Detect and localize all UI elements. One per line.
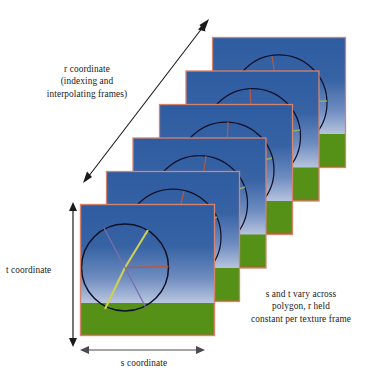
s-coordinate-label: s coordinate (98, 357, 190, 369)
annotation-note: s and t vary across polygon, r held cons… (232, 288, 370, 325)
figure-canvas: r coordinate (indexing and interpolating… (0, 0, 374, 381)
s-axis-arrow (80, 346, 205, 354)
texture-frame-1 (81, 205, 215, 336)
t-axis-arrow (69, 202, 77, 347)
r-coordinate-label: r coordinate (indexing and interpolating… (22, 63, 152, 100)
t-coordinate-label: t coordinate (6, 264, 70, 276)
